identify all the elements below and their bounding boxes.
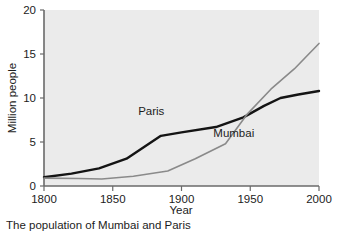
line-chart: 05101520 18001850190019502000 ParisMumba… xyxy=(0,0,342,237)
y-axis-title: Million people xyxy=(6,63,18,133)
figure-population-chart: 05101520 18001850190019502000 ParisMumba… xyxy=(0,0,342,237)
y-tick-label-15: 15 xyxy=(23,48,36,60)
figure-caption: The population of Mumbai and Paris xyxy=(6,219,191,232)
x-tick-label-1800: 1800 xyxy=(31,193,57,205)
x-tick-label-1850: 1850 xyxy=(100,193,126,205)
series-label-mumbai: Mumbai xyxy=(213,127,254,139)
y-tick-label-5: 5 xyxy=(30,136,36,148)
x-tick-label-1950: 1950 xyxy=(237,193,263,205)
x-axis-ticks xyxy=(44,186,319,191)
y-tick-label-0: 0 xyxy=(30,180,36,192)
x-axis-title: Year xyxy=(169,204,192,216)
series-label-paris: Paris xyxy=(138,105,164,117)
y-tick-label-10: 10 xyxy=(23,92,36,104)
y-tick-label-20: 20 xyxy=(23,4,36,16)
y-axis-tick-labels: 05101520 xyxy=(23,4,36,192)
x-tick-label-2000: 2000 xyxy=(306,193,332,205)
